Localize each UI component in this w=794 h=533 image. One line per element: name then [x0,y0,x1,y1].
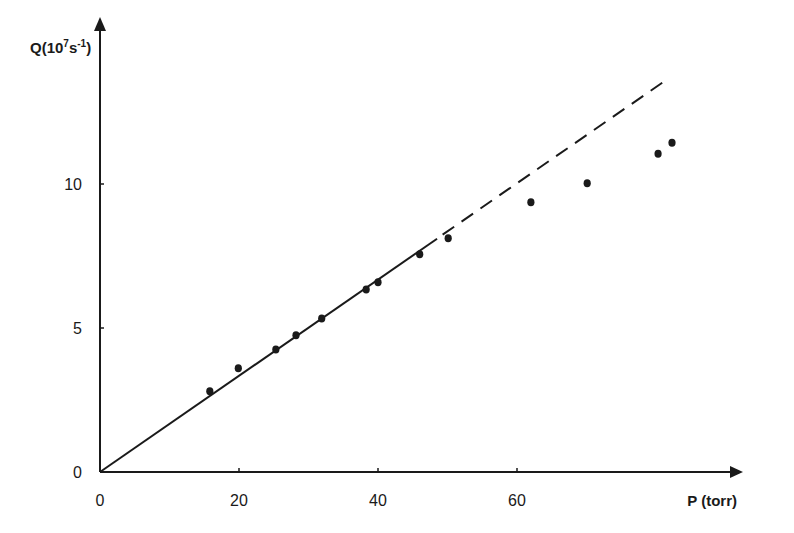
data-point [527,198,534,206]
x-tick-label: 0 [96,492,105,509]
y-axis-arrow-icon [94,17,106,31]
fit-line [100,239,437,472]
extrapolation-line [443,80,666,234]
fit-lines [100,80,666,472]
data-point [374,278,381,286]
x-axis-title: P (torr) [687,492,737,509]
data-point [654,150,661,158]
x-tick-label: 60 [508,492,526,509]
data-point [318,314,325,322]
x-axis-arrow-icon [730,466,743,478]
data-point [363,285,370,293]
data-point [584,179,591,187]
data-point [272,346,279,354]
axis-labels: 02040600510P (torr)Q(107s-1) [30,38,737,509]
chart: 02040600510P (torr)Q(107s-1) [0,0,794,533]
x-tick-label: 40 [369,492,387,509]
y-tick-label: 5 [73,320,82,337]
data-points [206,139,675,396]
y-tick-label: 0 [73,464,82,481]
data-point [445,234,452,242]
y-axis-title: Q(107s-1) [30,38,91,56]
data-point [668,139,675,147]
data-point [206,387,213,395]
data-point [416,250,423,258]
data-point [292,331,299,339]
data-point [235,364,242,372]
x-tick-label: 20 [230,492,248,509]
y-tick-label: 10 [64,176,82,193]
